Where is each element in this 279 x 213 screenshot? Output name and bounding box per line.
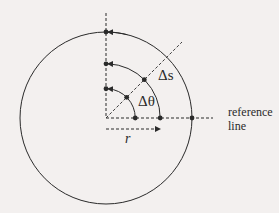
reference-label-line2: line <box>228 119 246 133</box>
outer-reference-dot <box>190 116 195 121</box>
reference-label-line1: reference <box>228 105 273 119</box>
outer-vertical-dot <box>104 30 109 35</box>
inner-vertical-dot <box>104 86 109 91</box>
outer-arc-arrow <box>108 32 127 35</box>
middle-reference-dot <box>158 116 163 121</box>
middle-ray-dot <box>142 77 147 82</box>
delta-s-label: Δs <box>158 67 174 83</box>
delta-theta-label: Δθ <box>138 93 155 109</box>
radius-label: r <box>125 131 131 146</box>
middle-vertical-dot <box>104 61 109 66</box>
rotation-diagram: Δs Δθ r reference line <box>0 0 279 213</box>
inner-reference-dot <box>133 116 138 121</box>
inner-ray-dot <box>124 95 129 100</box>
